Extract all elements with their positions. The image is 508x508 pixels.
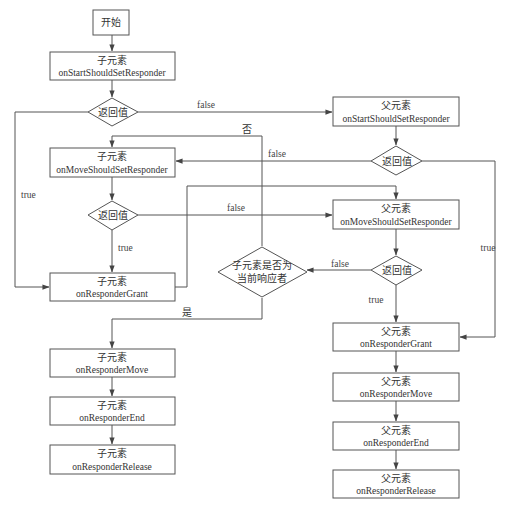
node-parent-responder-grant: 父元素 onResponderGrant bbox=[333, 323, 459, 351]
label-d2-false: false bbox=[268, 149, 286, 159]
svg-text:返回值: 返回值 bbox=[98, 106, 128, 118]
label-d1-false: false bbox=[197, 100, 215, 110]
svg-text:子元素: 子元素 bbox=[97, 399, 127, 411]
svg-text:子元素是否为: 子元素是否为 bbox=[232, 259, 292, 271]
decision-d4: 返回值 bbox=[371, 256, 422, 285]
svg-text:onMoveShouldSetResponder: onMoveShouldSetResponder bbox=[56, 165, 168, 175]
label-d1-true: true bbox=[21, 190, 36, 200]
node-start: 开始 bbox=[93, 10, 129, 35]
svg-text:父元素: 父元素 bbox=[381, 472, 411, 484]
svg-text:开始: 开始 bbox=[101, 16, 121, 28]
decision-d2: 返回值 bbox=[371, 146, 422, 175]
label-is-current-no: 否 bbox=[242, 124, 252, 135]
node-child-move-should-set-responder: 子元素 onMoveShouldSetResponder bbox=[50, 148, 175, 177]
node-child-responder-release: 子元素 onResponderRelease bbox=[50, 445, 175, 474]
svg-text:onMoveShouldSetResponder: onMoveShouldSetResponder bbox=[340, 217, 452, 227]
node-child-responder-end: 子元素 onResponderEnd bbox=[50, 397, 175, 425]
decision-d1: 返回值 bbox=[88, 98, 138, 126]
node-child-responder-move: 子元素 onResponderMove bbox=[50, 349, 175, 377]
edge-is-current-yes bbox=[112, 298, 262, 348]
svg-text:返回值: 返回值 bbox=[98, 209, 128, 221]
svg-text:子元素: 子元素 bbox=[97, 275, 127, 287]
node-child-start-should-set-responder: 子元素 onStartShouldSetResponder bbox=[50, 52, 175, 80]
svg-text:onStartShouldSetResponder: onStartShouldSetResponder bbox=[342, 114, 450, 124]
label-d3-true: true bbox=[118, 243, 133, 253]
svg-text:onResponderEnd: onResponderEnd bbox=[363, 438, 429, 448]
svg-text:onResponderMove: onResponderMove bbox=[76, 365, 148, 375]
flowchart-canvas: false true false true false true false t… bbox=[0, 0, 508, 508]
svg-text:返回值: 返回值 bbox=[382, 155, 412, 167]
svg-text:onResponderGrant: onResponderGrant bbox=[76, 289, 148, 299]
label-d2-true: true bbox=[481, 243, 496, 253]
decision-is-current-responder: 子元素是否为 当前响应者 bbox=[218, 247, 307, 297]
svg-text:子元素: 子元素 bbox=[97, 351, 127, 363]
svg-text:父元素: 父元素 bbox=[381, 202, 411, 214]
label-d4-true: true bbox=[369, 295, 384, 305]
svg-text:onResponderRelease: onResponderRelease bbox=[72, 462, 152, 472]
node-child-responder-grant: 子元素 onResponderGrant bbox=[50, 273, 175, 301]
svg-text:onResponderGrant: onResponderGrant bbox=[360, 339, 432, 349]
svg-text:子元素: 子元素 bbox=[97, 150, 127, 162]
svg-text:父元素: 父元素 bbox=[381, 424, 411, 436]
decision-d3: 返回值 bbox=[88, 201, 138, 230]
svg-text:返回值: 返回值 bbox=[382, 264, 412, 276]
label-d3-false: false bbox=[227, 203, 245, 213]
svg-text:onResponderMove: onResponderMove bbox=[360, 389, 432, 399]
label-is-current-yes: 是 bbox=[182, 307, 192, 318]
node-parent-responder-release: 父元素 onResponderRelease bbox=[333, 470, 459, 498]
svg-text:子元素: 子元素 bbox=[97, 54, 127, 66]
svg-text:父元素: 父元素 bbox=[381, 99, 411, 111]
svg-text:onStartShouldSetResponder: onStartShouldSetResponder bbox=[58, 68, 166, 78]
node-parent-responder-end: 父元素 onResponderEnd bbox=[333, 422, 459, 450]
svg-text:当前响应者: 当前响应者 bbox=[237, 272, 287, 284]
svg-text:父元素: 父元素 bbox=[381, 325, 411, 337]
node-parent-move-should-set-responder: 父元素 onMoveShouldSetResponder bbox=[333, 200, 459, 229]
label-d4-false: false bbox=[331, 259, 349, 269]
svg-text:onResponderRelease: onResponderRelease bbox=[356, 486, 436, 496]
svg-text:onResponderEnd: onResponderEnd bbox=[79, 413, 145, 423]
svg-text:父元素: 父元素 bbox=[381, 375, 411, 387]
svg-text:子元素: 子元素 bbox=[97, 447, 127, 459]
node-parent-start-should-set-responder: 父元素 onStartShouldSetResponder bbox=[333, 97, 459, 126]
node-parent-responder-move: 父元素 onResponderMove bbox=[333, 373, 459, 401]
